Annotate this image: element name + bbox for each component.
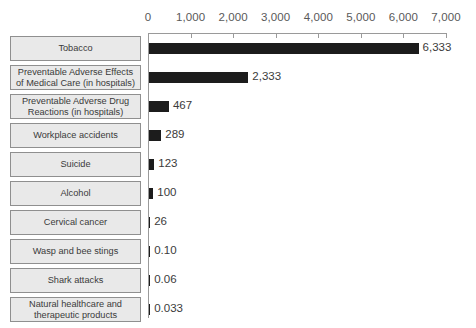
category-label-text: Shark attacks	[48, 275, 104, 286]
category-label-text: Suicide	[60, 159, 90, 170]
x-axis-tick-label: 1,000	[176, 11, 205, 23]
chart-row: Natural healthcare andtherapeutic produc…	[0, 297, 476, 322]
chart-row: Preventable Adverse Effectsof Medical Ca…	[0, 65, 476, 90]
category-label-text: Alcohol	[60, 188, 90, 199]
x-axis-tick-label: 4,000	[304, 11, 333, 23]
category-label-text: Cervical cancer	[44, 217, 107, 228]
category-label-line: Workplace accidents	[33, 130, 118, 141]
x-axis-tick-label: 2,000	[219, 11, 248, 23]
x-axis-tick-label: 3,000	[261, 11, 290, 23]
bar-area: 2,333	[149, 65, 476, 90]
category-label-box: Preventable Adverse Effectsof Medical Ca…	[10, 65, 141, 90]
chart-row: Suicide123	[0, 152, 476, 177]
bar	[149, 101, 169, 112]
bar	[149, 130, 161, 141]
category-label-box: Wasp and bee stings	[10, 239, 141, 264]
category-label-line: Tobacco	[58, 43, 92, 54]
bar-value-label: 6,333	[423, 41, 452, 53]
category-label-line: Cervical cancer	[44, 217, 107, 228]
x-axis-tick-mark	[361, 33, 362, 38]
x-axis-tick-mark	[446, 33, 447, 38]
category-label-text: Wasp and bee stings	[33, 246, 118, 257]
bar	[149, 275, 150, 286]
bar-area: 0.033	[149, 297, 476, 322]
x-axis-tick-mark	[148, 33, 149, 38]
category-label-text: Workplace accidents	[33, 130, 118, 141]
category-label-line: Preventable Adverse Drug	[22, 96, 129, 107]
x-axis-tick-label: 5,000	[346, 11, 375, 23]
bar-area: 289	[149, 123, 476, 148]
bar-area: 26	[149, 210, 476, 235]
category-label-box: Tobacco	[10, 36, 141, 61]
x-axis-tick-label: 7,000	[431, 11, 460, 23]
bar-value-label: 289	[165, 128, 184, 140]
category-label-text: Tobacco	[58, 43, 92, 54]
category-label-box: Preventable Adverse DrugReactions (in ho…	[10, 94, 141, 119]
chart-row: Workplace accidents289	[0, 123, 476, 148]
x-axis-line	[148, 33, 446, 34]
bar-area: 467	[149, 94, 476, 119]
chart-row: Shark attacks0.06	[0, 268, 476, 293]
bar-value-label: 100	[157, 186, 176, 198]
x-axis-tick-mark	[191, 33, 192, 38]
chart-row: Preventable Adverse DrugReactions (in ho…	[0, 94, 476, 119]
bar-area: 123	[149, 152, 476, 177]
category-label-text: Natural healthcare andtherapeutic produc…	[29, 299, 122, 320]
x-axis-tick-label: 6,000	[389, 11, 418, 23]
bar	[149, 217, 150, 228]
category-label-line: Preventable Adverse Effects	[16, 67, 135, 78]
bar-area: 0.10	[149, 239, 476, 264]
bar	[149, 43, 419, 54]
category-label-box: Cervical cancer	[10, 210, 141, 235]
x-axis-tick-mark	[318, 33, 319, 38]
category-label-text: Preventable Adverse DrugReactions (in ho…	[22, 96, 129, 117]
category-label-text: Preventable Adverse Effectsof Medical Ca…	[16, 67, 135, 88]
bar-value-label: 0.06	[154, 273, 176, 285]
category-label-box: Natural healthcare andtherapeutic produc…	[10, 297, 141, 322]
category-label-line: Shark attacks	[48, 275, 104, 286]
chart-rows: Tobacco6,333Preventable Adverse Effectso…	[0, 36, 476, 326]
bar	[149, 159, 154, 170]
x-axis-tick-labels: 01,0002,0003,0004,0005,0006,0007,000	[0, 11, 476, 27]
bar-value-label: 467	[173, 99, 192, 111]
bar-value-label: 0.10	[154, 244, 176, 256]
bar	[149, 246, 150, 257]
category-label-box: Workplace accidents	[10, 123, 141, 148]
bar-area: 0.06	[149, 268, 476, 293]
bar-area: 6,333	[149, 36, 476, 61]
chart-row: Alcohol100	[0, 181, 476, 206]
category-label-line: therapeutic products	[29, 310, 122, 321]
chart-row: Tobacco6,333	[0, 36, 476, 61]
category-label-line: Alcohol	[60, 188, 90, 199]
category-label-line: Reactions (in hospitals)	[22, 107, 129, 118]
bar	[149, 188, 153, 199]
category-label-line: Natural healthcare and	[29, 299, 122, 310]
category-label-box: Suicide	[10, 152, 141, 177]
chart-row: Wasp and bee stings0.10	[0, 239, 476, 264]
bar-value-label: 26	[154, 215, 167, 227]
category-label-line: of Medical Care (in hospitals)	[16, 78, 135, 89]
category-label-box: Alcohol	[10, 181, 141, 206]
x-axis-tick-label: 0	[145, 11, 152, 23]
category-label-line: Suicide	[60, 159, 90, 170]
bar-area: 100	[149, 181, 476, 206]
chart-row: Cervical cancer26	[0, 210, 476, 235]
bar-value-label: 123	[158, 157, 177, 169]
category-label-box: Shark attacks	[10, 268, 141, 293]
bar	[149, 304, 150, 315]
category-label-line: Wasp and bee stings	[33, 246, 118, 257]
x-axis-tick-mark	[276, 33, 277, 38]
x-axis-tick-mark	[233, 33, 234, 38]
bar	[149, 72, 248, 83]
bar-value-label: 0.033	[154, 302, 183, 314]
bar-value-label: 2,333	[252, 70, 281, 82]
bar-chart: 01,0002,0003,0004,0005,0006,0007,000 Tob…	[0, 0, 476, 328]
x-axis-tick-mark	[403, 33, 404, 38]
